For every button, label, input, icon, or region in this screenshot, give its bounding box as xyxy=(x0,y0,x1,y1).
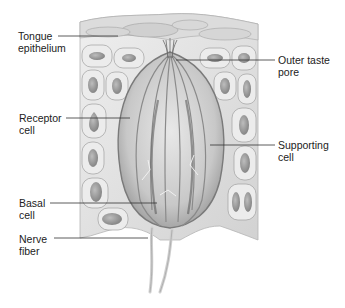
taste-bud-diagram: Tongue epithelium Outer taste pore Recep… xyxy=(0,0,345,308)
label-tongue-epithelium: Tongue epithelium xyxy=(18,30,66,54)
label-receptor-cell: Receptor cell xyxy=(19,112,62,136)
label-basal-cell: Basal cell xyxy=(19,197,45,221)
label-outer-taste-pore: Outer taste pore xyxy=(278,54,330,78)
label-supporting-cell: Supporting cell xyxy=(278,139,329,163)
label-nerve-fiber: Nerve fiber xyxy=(19,233,47,257)
